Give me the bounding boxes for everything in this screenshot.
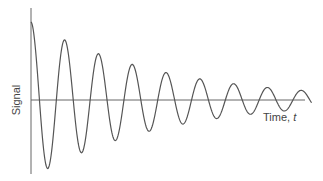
damped-oscillation-chart	[0, 0, 323, 181]
y-axis-label: Signal	[10, 80, 22, 120]
signal-curve	[31, 22, 312, 168]
x-axis-label: Time, t	[263, 111, 296, 123]
